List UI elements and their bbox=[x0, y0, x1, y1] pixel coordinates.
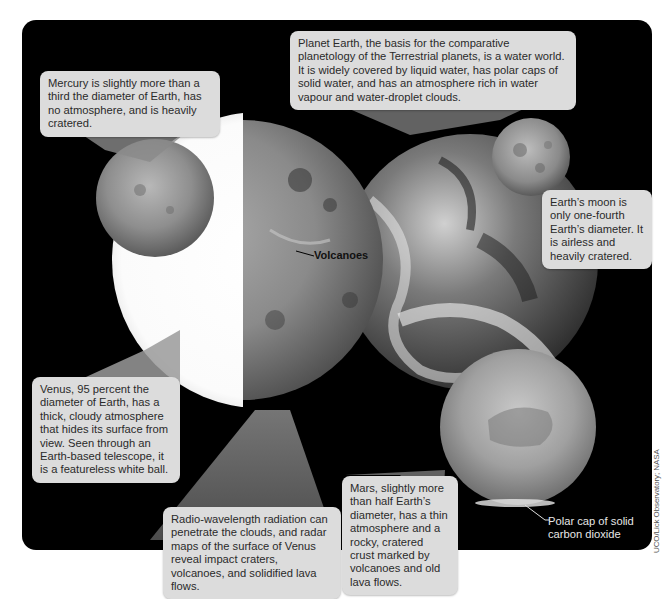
mercury-callout: Mercury is slightly more than a third th… bbox=[40, 71, 220, 137]
volcanoes-label: Volcanoes bbox=[314, 249, 368, 261]
radar-callout-text: Radio-wavelength radiation can penetrate… bbox=[171, 513, 328, 592]
polar-cap-leader-line bbox=[525, 505, 550, 520]
polar-cap-label: Polar cap of solid carbon dioxide bbox=[548, 515, 640, 542]
venus-callout-text: Venus, 95 percent the diameter of Earth,… bbox=[40, 383, 168, 475]
moon bbox=[492, 118, 570, 196]
mars-callout-text: Mars, slightly more than half Earth’s di… bbox=[350, 482, 448, 588]
earth-callout: Planet Earth, the basis for the comparat… bbox=[290, 31, 576, 110]
moon-callout: Earth’s moon is only one-fourth Earth’s … bbox=[542, 190, 652, 269]
mars-planet bbox=[440, 349, 596, 507]
mercury-callout-text: Mercury is slightly more than a third th… bbox=[48, 77, 202, 129]
radar-callout: Radio-wavelength radiation can penetrate… bbox=[163, 507, 341, 599]
venus-callout: Venus, 95 percent the diameter of Earth,… bbox=[32, 377, 180, 483]
earth-callout-text: Planet Earth, the basis for the comparat… bbox=[298, 37, 565, 103]
moon-callout-text: Earth’s moon is only one-fourth Earth’s … bbox=[550, 196, 643, 262]
mars-callout: Mars, slightly more than half Earth’s di… bbox=[342, 476, 458, 595]
image-credit: UCO/Lick Observatory; NASA bbox=[652, 449, 661, 553]
